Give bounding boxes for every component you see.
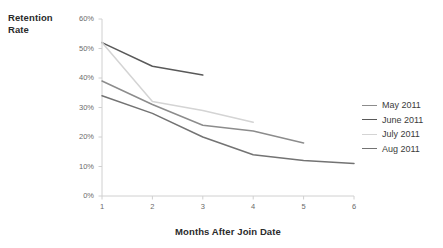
x-axis-title: Months After Join Date — [102, 226, 354, 237]
y-axis-ticks — [99, 19, 103, 196]
x-axis-ticks — [102, 196, 354, 200]
series-line — [102, 96, 354, 164]
y-axis-tick-label: 30% — [64, 104, 94, 112]
legend-label: May 2011 — [382, 100, 421, 110]
legend-item[interactable]: Aug 2011 — [362, 142, 442, 157]
y-axis-tick-label: 40% — [64, 74, 94, 82]
y-axis-tick-label: 20% — [64, 133, 94, 141]
legend-item[interactable]: July 2011 — [362, 127, 442, 142]
legend-swatch-icon — [362, 119, 377, 120]
x-axis-tick-label: 3 — [194, 203, 212, 211]
legend-swatch-icon — [362, 134, 377, 135]
retention-rate-chart: Retention Rate 0%10%20%30%40%50%60% 1234… — [0, 0, 443, 248]
legend-swatch-icon — [362, 105, 377, 106]
legend-label: June 2011 — [382, 115, 423, 125]
x-axis-tick-label: 2 — [143, 203, 161, 211]
x-axis-tick-label: 4 — [244, 203, 262, 211]
y-axis-tick-label: 60% — [64, 15, 94, 23]
x-axis-tick-label: 5 — [295, 203, 313, 211]
axis-lines — [102, 19, 354, 196]
series-line — [102, 43, 203, 75]
x-axis-tick-label: 1 — [93, 203, 111, 211]
legend: May 2011June 2011July 2011Aug 2011 — [362, 98, 442, 156]
series-line — [102, 43, 253, 123]
series-line — [102, 81, 304, 143]
plot-svg — [102, 19, 354, 196]
y-axis-tick-label: 0% — [64, 192, 94, 200]
legend-swatch-icon — [362, 148, 377, 149]
y-axis-tick-label: 10% — [64, 163, 94, 171]
y-axis-tick-label: 50% — [64, 45, 94, 53]
y-axis-title-line-2: Rate — [8, 24, 82, 36]
legend-item[interactable]: June 2011 — [362, 113, 442, 128]
legend-item[interactable]: May 2011 — [362, 98, 442, 113]
legend-label: July 2011 — [382, 129, 420, 139]
series-lines — [102, 43, 354, 164]
plot-area — [102, 19, 354, 196]
x-axis-tick-label: 6 — [345, 203, 363, 211]
legend-label: Aug 2011 — [382, 144, 420, 154]
